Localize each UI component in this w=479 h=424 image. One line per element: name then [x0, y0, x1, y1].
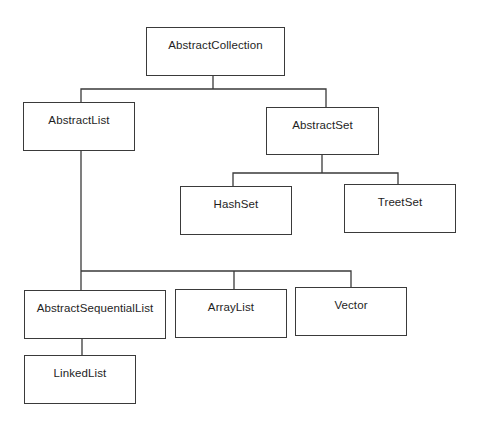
node-label: Vector: [296, 299, 406, 311]
node-abstract-list: AbstractList: [23, 102, 135, 151]
node-abstract-sequential-list: AbstractSequentialList: [24, 290, 166, 339]
class-hierarchy-diagram: AbstractCollection AbstractList Abstract…: [0, 0, 479, 424]
node-label: AbstractList: [24, 114, 134, 126]
node-label: TreetSet: [345, 196, 455, 208]
node-label: AbstractSet: [267, 119, 378, 131]
node-array-list: ArrayList: [175, 289, 287, 338]
node-label: HashSet: [181, 198, 291, 210]
node-label: LinkedList: [25, 367, 135, 379]
node-label: AbstractSequentialList: [25, 302, 165, 314]
node-treet-set: TreetSet: [344, 184, 456, 233]
node-linked-list: LinkedList: [24, 355, 136, 404]
node-label: AbstractCollection: [147, 39, 284, 51]
node-label: ArrayList: [176, 301, 286, 313]
node-vector: Vector: [295, 287, 407, 336]
node-abstract-set: AbstractSet: [266, 107, 379, 155]
node-abstract-collection: AbstractCollection: [146, 27, 285, 76]
node-hash-set: HashSet: [180, 186, 292, 235]
